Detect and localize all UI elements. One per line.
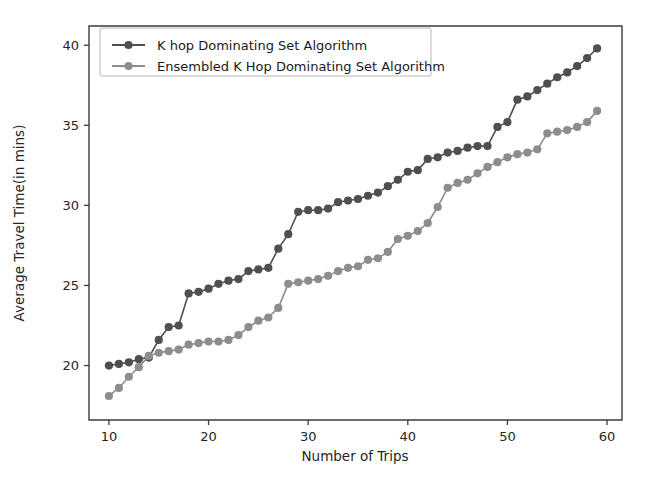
data-point-marker: [493, 158, 501, 166]
data-point-marker: [354, 195, 362, 203]
data-point-marker: [493, 123, 501, 131]
data-point-marker: [284, 230, 292, 238]
data-point-marker: [543, 129, 551, 137]
data-point-marker: [463, 176, 471, 184]
y-tick-label: 40: [62, 38, 79, 53]
data-point-marker: [563, 68, 571, 76]
data-point-marker: [563, 126, 571, 134]
data-point-marker: [553, 73, 561, 81]
data-point-marker: [165, 323, 173, 331]
data-point-marker: [264, 313, 272, 321]
data-point-marker: [234, 331, 242, 339]
data-point-marker: [204, 285, 212, 293]
data-point-marker: [135, 363, 143, 371]
data-point-marker: [473, 169, 481, 177]
data-point-marker: [294, 208, 302, 216]
y-tick-label: 25: [62, 278, 79, 293]
x-tick-label: 50: [499, 429, 516, 444]
data-point-marker: [145, 352, 153, 360]
data-point-marker: [224, 277, 232, 285]
data-point-marker: [334, 198, 342, 206]
data-point-marker: [214, 280, 222, 288]
data-point-marker: [593, 107, 601, 115]
legend-entry-label: K hop Dominating Set Algorithm: [157, 38, 367, 53]
data-point-marker: [294, 278, 302, 286]
data-point-marker: [344, 196, 352, 204]
y-tick-label: 35: [62, 118, 79, 133]
data-point-marker: [364, 256, 372, 264]
data-point-marker: [175, 345, 183, 353]
data-point-marker: [533, 86, 541, 94]
data-point-marker: [444, 148, 452, 156]
data-point-marker: [185, 341, 193, 349]
y-tick-label: 20: [62, 358, 79, 373]
data-point-marker: [404, 168, 412, 176]
data-point-marker: [513, 96, 521, 104]
chart-legend[interactable]: K hop Dominating Set AlgorithmEnsembled …: [100, 28, 445, 76]
legend-entry-label: Ensembled K Hop Dominating Set Algorithm: [157, 59, 445, 74]
x-tick-label: 10: [101, 429, 118, 444]
data-point-marker: [284, 280, 292, 288]
data-point-marker: [274, 304, 282, 312]
data-point-marker: [274, 245, 282, 253]
data-point-marker: [553, 128, 561, 136]
data-point-marker: [105, 361, 113, 369]
data-point-marker: [105, 392, 113, 400]
y-axis-label: Average Travel Time(in mins): [11, 125, 27, 322]
data-point-marker: [125, 358, 133, 366]
data-point-marker: [473, 142, 481, 150]
data-point-marker: [424, 219, 432, 227]
data-point-marker: [115, 360, 123, 368]
data-point-marker: [354, 262, 362, 270]
data-point-marker: [135, 355, 143, 363]
data-point-marker: [224, 336, 232, 344]
data-point-marker: [523, 92, 531, 100]
data-point-marker: [404, 232, 412, 240]
data-point-marker: [254, 317, 262, 325]
data-point-marker: [374, 254, 382, 262]
data-point-marker: [454, 147, 462, 155]
data-point-marker: [194, 339, 202, 347]
data-point-marker: [454, 179, 462, 187]
data-point-marker: [424, 155, 432, 163]
data-point-marker: [483, 163, 491, 171]
legend-marker-icon: [124, 62, 132, 70]
x-tick-label: 20: [200, 429, 217, 444]
data-point-marker: [434, 153, 442, 161]
data-point-marker: [244, 267, 252, 275]
data-point-marker: [125, 373, 133, 381]
data-point-marker: [394, 176, 402, 184]
data-point-marker: [583, 118, 591, 126]
data-point-marker: [264, 264, 272, 272]
data-point-marker: [573, 62, 581, 70]
data-point-marker: [434, 203, 442, 211]
data-point-marker: [374, 188, 382, 196]
data-point-marker: [483, 142, 491, 150]
legend-marker-icon: [124, 41, 132, 49]
data-point-marker: [115, 384, 123, 392]
data-point-marker: [194, 288, 202, 296]
data-point-marker: [234, 275, 242, 283]
y-tick-label: 30: [62, 198, 79, 213]
x-tick-label: 30: [300, 429, 317, 444]
data-point-marker: [463, 144, 471, 152]
data-point-marker: [185, 289, 193, 297]
data-point-marker: [314, 206, 322, 214]
data-point-marker: [304, 277, 312, 285]
data-point-marker: [573, 123, 581, 131]
data-point-marker: [214, 337, 222, 345]
data-point-marker: [503, 118, 511, 126]
data-point-marker: [165, 347, 173, 355]
data-point-marker: [324, 272, 332, 280]
data-point-marker: [394, 235, 402, 243]
data-point-marker: [384, 248, 392, 256]
data-point-marker: [324, 204, 332, 212]
data-point-marker: [444, 184, 452, 192]
data-point-marker: [533, 145, 541, 153]
legend-entry-2[interactable]: Ensembled K Hop Dominating Set Algorithm: [112, 59, 445, 74]
data-point-marker: [175, 321, 183, 329]
data-point-marker: [254, 265, 262, 273]
data-point-marker: [155, 349, 163, 357]
data-point-marker: [543, 80, 551, 88]
x-tick-label: 60: [599, 429, 616, 444]
